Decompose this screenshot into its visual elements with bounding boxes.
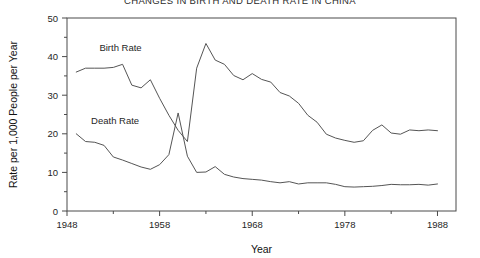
x-tick-label: 1978: [334, 219, 355, 230]
chart-plot-area: 0102030405019481958196819781988 Birth Ra…: [0, 0, 480, 258]
x-tick-label: 1958: [149, 219, 170, 230]
x-tick-label: 1968: [242, 219, 263, 230]
series-line-birth-rate: [76, 43, 437, 142]
y-tick-label: 10: [47, 167, 58, 178]
series-label-birth-rate: Birth Rate: [99, 42, 141, 53]
y-tick-label: 20: [47, 128, 58, 139]
x-tick-label: 1988: [427, 219, 448, 230]
axis-titles-layer: YearRate per 1,000 People per Year: [7, 40, 273, 255]
series-labels-layer: Birth RateDeath Rate: [91, 42, 142, 126]
x-tick-label: 1948: [56, 219, 77, 230]
y-tick-label: 40: [47, 51, 58, 62]
y-tick-label: 30: [47, 90, 58, 101]
x-axis-title: Year: [251, 243, 273, 255]
y-tick-label: 50: [47, 13, 58, 24]
y-tick-label: 0: [53, 206, 58, 217]
chart-figure: CHANGES IN BIRTH AND DEATH RATE IN CHINA…: [0, 0, 480, 258]
y-axis-title: Rate per 1,000 People per Year: [7, 40, 19, 188]
series-label-death-rate: Death Rate: [91, 115, 139, 126]
